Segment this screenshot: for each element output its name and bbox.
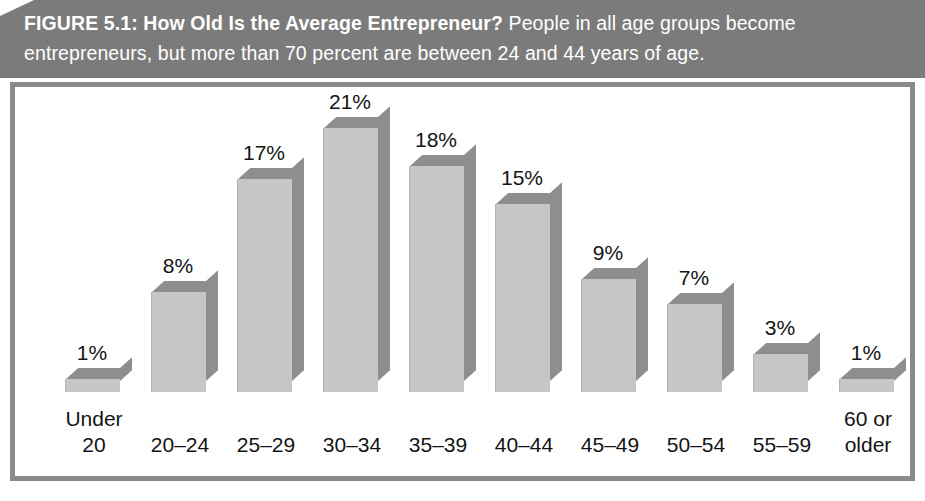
bar[interactable] (581, 279, 636, 392)
bar-group: 9%45–49 (567, 87, 653, 476)
figure-caption-lead: FIGURE 5.1: How Old Is the Average Entre… (24, 12, 503, 34)
bar-side-face (722, 282, 734, 381)
bar-side-face (206, 270, 218, 381)
bar-category-label-line: 30–34 (303, 432, 401, 458)
bar-category-label-line: Under (45, 406, 143, 432)
bar[interactable] (667, 304, 722, 392)
bar-side-face (636, 257, 648, 381)
bar-side-face (378, 107, 390, 381)
bar-group: 1%60 orolder (825, 87, 911, 476)
bar-side-face (292, 157, 304, 381)
bar-category-label: 50–54 (647, 432, 745, 458)
bar-category-label: 30–34 (303, 432, 401, 458)
bar-category-label: 20–24 (131, 432, 229, 458)
bar-group: 1%Under20 (51, 87, 137, 476)
bar-category-label-line: older (819, 432, 917, 458)
bar[interactable] (495, 204, 550, 392)
bar-category-label: 60 orolder (819, 406, 917, 458)
bar-group: 8%20–24 (137, 87, 223, 476)
figure-caption-banner: FIGURE 5.1: How Old Is the Average Entre… (0, 0, 925, 78)
bar-category-label: 40–44 (475, 432, 573, 458)
bar-value-label: 18% (401, 128, 471, 152)
bar-category-label: 25–29 (217, 432, 315, 458)
bar-category-label: 45–49 (561, 432, 659, 458)
bar-value-label: 7% (659, 266, 729, 290)
bar-chart-plot-area: 1%Under208%20–2417%25–2921%30–3418%35–39… (15, 87, 910, 476)
bar-category-label-line: 55–59 (733, 432, 831, 458)
bar-group: 18%35–39 (395, 87, 481, 476)
bar-category-label-line: 20–24 (131, 432, 229, 458)
bar-category-label: 35–39 (389, 432, 487, 458)
bar-value-label: 17% (229, 141, 299, 165)
bar-value-label: 15% (487, 166, 557, 190)
bar-category-label-line: 60 or (819, 406, 917, 432)
bar[interactable] (753, 354, 808, 392)
bar-category-label: Under20 (45, 406, 143, 458)
bar-category-label-line: 40–44 (475, 432, 573, 458)
bar-category-label-line: 45–49 (561, 432, 659, 458)
figure-container: FIGURE 5.1: How Old Is the Average Entre… (0, 0, 925, 501)
bar-side-face (464, 144, 476, 381)
bar-group: 21%30–34 (309, 87, 395, 476)
bar[interactable] (237, 179, 292, 392)
bar-category-label-line: 25–29 (217, 432, 315, 458)
bar-value-label: 1% (57, 341, 127, 365)
bar-value-label: 3% (745, 316, 815, 340)
bar-value-label: 21% (315, 90, 385, 114)
figure-caption-text: FIGURE 5.1: How Old Is the Average Entre… (24, 8, 907, 68)
bar-category-label: 55–59 (733, 432, 831, 458)
bar-category-label-line: 35–39 (389, 432, 487, 458)
bar-group: 15%40–44 (481, 87, 567, 476)
bar-group: 3%55–59 (739, 87, 825, 476)
bar[interactable] (151, 292, 206, 392)
bar-category-label-line: 50–54 (647, 432, 745, 458)
bar-value-label: 9% (573, 241, 643, 265)
bar[interactable] (839, 379, 894, 392)
bar[interactable] (323, 128, 378, 392)
bar-value-label: 8% (143, 254, 213, 278)
bar[interactable] (409, 166, 464, 392)
bar-group: 17%25–29 (223, 87, 309, 476)
bar-category-label-line: 20 (45, 432, 143, 458)
bar-value-label: 1% (831, 341, 901, 365)
bar-side-face (550, 182, 562, 381)
bar[interactable] (65, 379, 120, 392)
bar-group: 7%50–54 (653, 87, 739, 476)
